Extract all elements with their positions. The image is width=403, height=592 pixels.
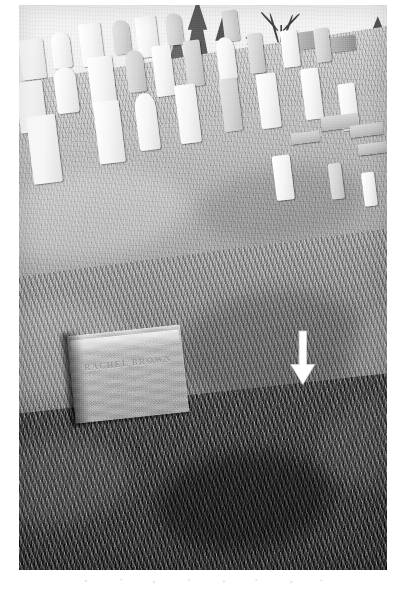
scan-speckle-marks <box>70 576 340 586</box>
marker-beveled-edge <box>70 330 179 354</box>
arrow-down-icon <box>289 330 317 387</box>
page-root: RACHEL BROWN 1841 — 1908 AT REST <box>0 0 403 592</box>
arrow-annotation <box>289 330 317 387</box>
foreground-grave-marker: RACHEL BROWN 1841 — 1908 AT REST <box>66 324 189 423</box>
cemetery-hillside-photograph: RACHEL BROWN 1841 — 1908 AT REST <box>19 5 387 570</box>
